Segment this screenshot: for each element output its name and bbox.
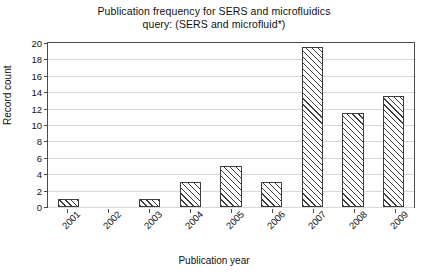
bar-chart-figure: Publication frequency for SERS and micro… xyxy=(0,0,428,276)
bar xyxy=(180,182,201,207)
chart-title: Publication frequency for SERS and micro… xyxy=(0,5,428,31)
x-tick-label: 2002 xyxy=(101,209,124,232)
bar-slot xyxy=(251,43,292,207)
x-tick-label: 2009 xyxy=(387,209,410,232)
y-tick-mark xyxy=(44,207,48,208)
bars-layer xyxy=(48,43,414,207)
y-tick-label: 12 xyxy=(31,103,42,114)
bar xyxy=(58,199,79,207)
x-label-slot: 2004 xyxy=(170,209,211,253)
y-tick-label: 18 xyxy=(31,54,42,65)
x-label-slot: 2006 xyxy=(251,209,292,253)
x-tick-label: 2008 xyxy=(346,209,369,232)
x-tick-mark xyxy=(108,209,109,213)
x-tick-mark xyxy=(67,209,68,213)
bar-slot xyxy=(129,43,170,207)
x-tick-mark xyxy=(395,209,396,213)
plot-area: 20181614121086420 xyxy=(47,42,415,208)
x-axis-ticks: 200120022003200420052006200720082009 xyxy=(47,209,415,253)
bar-slot xyxy=(292,43,333,207)
x-tick-label: 2004 xyxy=(183,209,206,232)
bar xyxy=(261,182,282,207)
y-axis-title: Record count xyxy=(2,66,13,125)
x-label-slot: 2008 xyxy=(333,209,374,253)
x-label-slot: 2001 xyxy=(47,209,88,253)
x-tick-mark xyxy=(272,209,273,213)
x-tick-mark xyxy=(190,209,191,213)
bar-slot xyxy=(211,43,252,207)
x-tick-label: 2003 xyxy=(142,209,165,232)
bar xyxy=(302,47,323,207)
bar xyxy=(139,199,160,207)
y-tick-label: 4 xyxy=(37,169,42,180)
x-axis-title: Publication year xyxy=(0,255,428,266)
x-tick-label: 2006 xyxy=(264,209,287,232)
bar-slot xyxy=(373,43,414,207)
x-label-slot: 2002 xyxy=(88,209,129,253)
y-tick-label: 0 xyxy=(37,202,42,213)
x-tick-label: 2007 xyxy=(305,209,328,232)
bar xyxy=(342,113,363,207)
y-tick-label: 16 xyxy=(31,70,42,81)
gridline xyxy=(48,207,414,208)
y-tick-label: 20 xyxy=(31,38,42,49)
y-tick-label: 10 xyxy=(31,120,42,131)
chart-title-line1: Publication frequency for SERS and micro… xyxy=(98,5,331,17)
y-tick-label: 8 xyxy=(37,136,42,147)
bar xyxy=(220,166,241,207)
x-tick-label: 2001 xyxy=(60,209,83,232)
x-tick-label: 2005 xyxy=(224,209,247,232)
x-tick-mark xyxy=(313,209,314,213)
x-label-slot: 2009 xyxy=(374,209,415,253)
x-label-slot: 2007 xyxy=(292,209,333,253)
y-tick-label: 14 xyxy=(31,87,42,98)
bar-slot xyxy=(333,43,374,207)
bar xyxy=(383,96,404,207)
y-tick-label: 2 xyxy=(37,185,42,196)
x-tick-mark xyxy=(149,209,150,213)
x-tick-mark xyxy=(354,209,355,213)
x-label-slot: 2005 xyxy=(211,209,252,253)
bar-slot xyxy=(89,43,130,207)
y-tick-label: 6 xyxy=(37,152,42,163)
chart-title-line2: query: (SERS and microfluid*) xyxy=(0,18,428,31)
bar-slot xyxy=(170,43,211,207)
x-tick-mark xyxy=(231,209,232,213)
bar-slot xyxy=(48,43,89,207)
x-label-slot: 2003 xyxy=(129,209,170,253)
